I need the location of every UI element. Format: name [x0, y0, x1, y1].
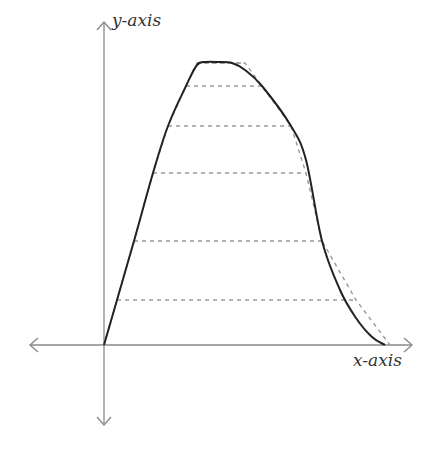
- function-curve: [104, 62, 385, 345]
- diagram-canvas: [0, 0, 448, 455]
- horizontal-dashed-slices: [117, 63, 356, 300]
- x-axis-label: x-axis: [353, 350, 402, 370]
- y-axis-label: y-axis: [112, 10, 161, 30]
